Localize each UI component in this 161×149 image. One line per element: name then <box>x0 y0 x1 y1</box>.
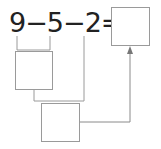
result-box[interactable] <box>111 7 150 46</box>
bracket-9-5 <box>17 36 50 50</box>
step1-box[interactable] <box>15 51 53 90</box>
arrow-line <box>79 52 130 122</box>
arrow-head-icon <box>127 46 133 54</box>
step2-box[interactable] <box>41 103 80 142</box>
